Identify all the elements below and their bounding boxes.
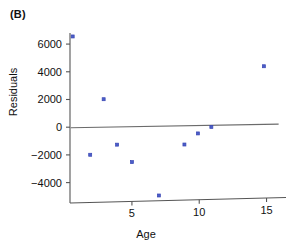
y-tick-label: −2000 — [31, 149, 62, 161]
data-point — [157, 194, 160, 197]
y-tick-label: 6000 — [38, 38, 62, 50]
y-tick-label: 0 — [56, 121, 62, 133]
x-axis-line — [70, 198, 286, 204]
y-tick-label: −4000 — [31, 177, 62, 189]
data-point — [210, 125, 213, 128]
x-tick-label: 15 — [260, 204, 272, 216]
data-point — [89, 153, 92, 156]
data-point — [102, 98, 105, 101]
y-tick-label: 2000 — [38, 93, 62, 105]
x-tick-label: 5 — [129, 207, 135, 219]
data-point — [183, 143, 186, 146]
data-point — [262, 65, 265, 68]
data-point — [130, 161, 133, 164]
scatter-plot-canvas: 6000400020000−2000−4000 51015 — [0, 0, 292, 251]
data-point — [71, 35, 74, 38]
y-tick-label: 4000 — [38, 66, 62, 78]
reference-trend-line — [71, 124, 279, 128]
data-point-group — [71, 35, 265, 197]
residual-plot-figure: (B) Residuals Age 6000400020000−2000−400… — [0, 0, 292, 251]
y-axis-ticks: 6000400020000−2000−4000 — [31, 38, 70, 189]
data-point — [196, 132, 199, 135]
data-point — [116, 143, 119, 146]
x-tick-label: 10 — [193, 206, 205, 218]
